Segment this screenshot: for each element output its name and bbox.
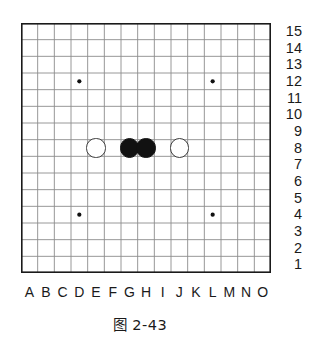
column-label-a: A [21,283,38,301]
row-label-axis: 151413121110987654321 [276,23,306,273]
go-diagram-figure: ABCDEFGHIJKLMNO 151413121110987654321 图 … [0,0,316,341]
row-label-1: 1 [276,256,302,273]
column-label-n: N [238,283,255,301]
star-point-d4-icon [77,213,81,217]
column-label-axis: ABCDEFGHIJKLMNO [21,283,271,301]
black-stone-h8[interactable] [136,138,155,157]
white-stone-j8[interactable] [170,138,189,157]
column-label-o: O [254,283,271,301]
row-label-12: 12 [276,73,302,90]
row-label-8: 8 [276,140,302,157]
row-label-6: 6 [276,173,302,190]
column-label-c: C [54,283,71,301]
row-label-10: 10 [276,106,302,123]
column-label-d: D [71,283,88,301]
column-label-i: I [154,283,171,301]
white-stone-e8[interactable] [86,138,105,157]
row-label-4: 4 [276,206,302,223]
row-label-11: 11 [276,90,302,107]
column-label-j: J [171,283,188,301]
column-label-e: E [88,283,105,301]
column-label-m: M [221,283,238,301]
column-label-b: B [38,283,55,301]
row-label-15: 15 [276,23,302,40]
column-label-l: L [204,283,221,301]
row-label-3: 3 [276,223,302,240]
go-board[interactable] [21,23,271,273]
row-label-14: 14 [276,40,302,57]
column-label-g: G [121,283,138,301]
row-label-7: 7 [276,156,302,173]
column-label-h: H [138,283,155,301]
column-label-k: K [188,283,205,301]
star-point-l4-icon [211,213,215,217]
figure-caption: 图 2-43 [0,313,280,334]
row-label-13: 13 [276,56,302,73]
star-point-l12-icon [211,79,215,83]
row-label-5: 5 [276,190,302,207]
row-label-2: 2 [276,240,302,257]
column-label-f: F [104,283,121,301]
row-label-9: 9 [276,123,302,140]
star-point-d12-icon [77,79,81,83]
